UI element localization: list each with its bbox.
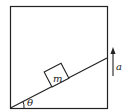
acceleration-label: a	[116, 61, 122, 72]
acceleration-arrow-icon	[111, 47, 116, 54]
diagram-canvas: θ m a	[0, 0, 127, 112]
elevator-box	[11, 7, 108, 109]
mass-label: m	[53, 73, 62, 84]
angle-arc	[23, 102, 24, 109]
angle-label: θ	[27, 97, 33, 108]
